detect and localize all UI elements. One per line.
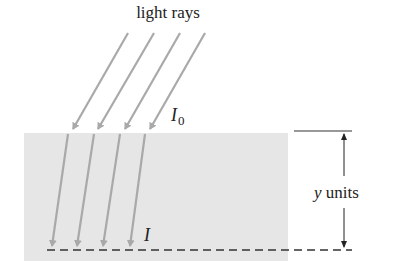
ray-2-incident [98, 33, 154, 129]
depth-intensity-label: I [143, 225, 151, 245]
depth-variable: y [312, 183, 322, 202]
light-absorption-diagram: light rays I0 I y units [0, 0, 402, 275]
ray-1-incident [73, 33, 128, 129]
surface-intensity-subscript: 0 [178, 113, 185, 128]
depth-label: y units [312, 183, 359, 202]
surface-intensity-label: I0 [170, 105, 185, 128]
light-rays-label: light rays [136, 3, 200, 22]
medium-region [24, 133, 288, 261]
depth-units: units [322, 183, 359, 202]
